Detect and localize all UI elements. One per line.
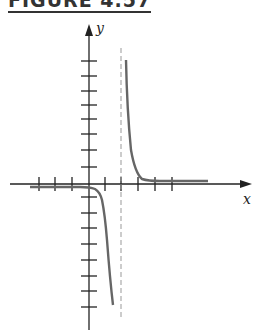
y-axis-arrow-icon — [85, 24, 93, 36]
curve-right-branch — [126, 60, 208, 181]
chart-plot: y x — [0, 0, 255, 333]
y-axis-label: y — [95, 20, 105, 36]
x-axis-label: x — [243, 191, 251, 207]
curve-left-branch — [30, 187, 113, 305]
x-axis-arrow-icon — [240, 180, 252, 188]
